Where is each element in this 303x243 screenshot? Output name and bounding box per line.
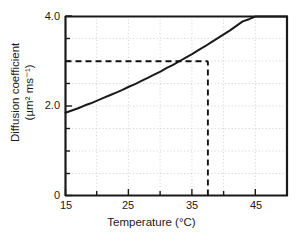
y-axis-title: Diffusion coefficient (µm² ms⁻¹) [8,7,37,177]
x-tick-label-45: 45 [243,200,269,211]
x-axis-title: Temperature (°C) [0,216,303,229]
chart-figure: 4.0 2.0 0 15 25 35 45 Temperature (°C) D… [0,0,303,243]
x-tick-label-35: 35 [179,200,205,211]
y-axis-title-line2: (µm² ms⁻¹) [22,7,36,177]
x-tick-label-15: 15 [53,200,79,211]
plot-background [65,16,288,196]
y-axis-title-line1: Diffusion coefficient [9,43,21,142]
x-tick-label-25: 25 [115,200,141,211]
